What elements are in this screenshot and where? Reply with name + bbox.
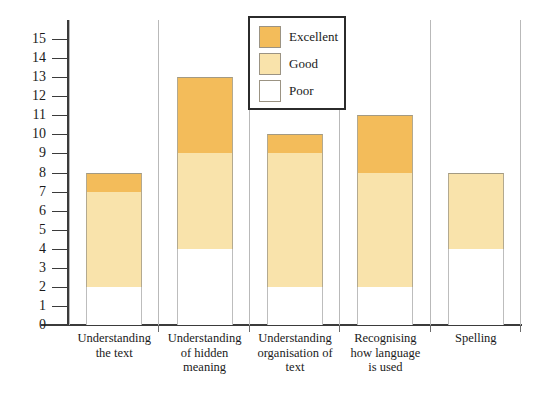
bar-segment-good[interactable] — [448, 173, 504, 249]
legend-swatch-poor — [259, 80, 281, 102]
y-axis-tick-label: 9 — [0, 146, 46, 160]
y-axis-tick — [52, 211, 67, 212]
y-axis-tick — [52, 306, 67, 307]
bar-stack[interactable] — [177, 77, 233, 325]
bar-segment-poor[interactable] — [448, 249, 504, 325]
y-axis-tick — [52, 115, 67, 116]
y-axis-tick-label: 6 — [0, 204, 46, 218]
x-axis-category-label-line: how language — [340, 346, 430, 361]
y-axis-tick-label: 1 — [0, 299, 46, 313]
y-axis-tick — [52, 287, 67, 288]
bar-stack[interactable] — [267, 134, 323, 325]
x-axis-category-label: Spelling — [431, 331, 521, 346]
x-axis-category-label-line: organisation of — [250, 346, 340, 361]
y-axis-tick-label: 10 — [0, 127, 46, 141]
bar-segment-good[interactable] — [86, 192, 142, 287]
bar-segment-poor[interactable] — [177, 249, 233, 325]
x-axis-category-label-line: Understanding — [69, 331, 159, 346]
category-separator-line — [69, 20, 70, 325]
x-axis-category-label-line: Understanding — [250, 331, 340, 346]
bar-stack[interactable] — [448, 173, 504, 326]
bar-segment-poor[interactable] — [86, 287, 142, 325]
y-axis-tick-label: 12 — [0, 89, 46, 103]
y-axis-tick-label: 14 — [0, 51, 46, 65]
bar-segment-poor[interactable] — [357, 287, 413, 325]
legend-swatch-good — [259, 53, 281, 75]
x-axis-category-label-line: Spelling — [431, 331, 521, 346]
y-axis-tick-label: 0 — [0, 318, 46, 332]
y-axis-tick — [52, 77, 67, 78]
y-axis-tick-label: 5 — [0, 223, 46, 237]
bar-segment-excellent[interactable] — [177, 77, 233, 153]
category-separator-line — [158, 20, 159, 325]
y-axis-tick — [52, 268, 67, 269]
x-axis-category-label-line: text — [250, 360, 340, 375]
y-axis-tick — [52, 230, 67, 231]
bar-stack[interactable] — [357, 115, 413, 325]
bar-segment-good[interactable] — [357, 173, 413, 287]
legend-label: Poor — [289, 83, 314, 99]
y-axis-tick-label: 2 — [0, 280, 46, 294]
chart-legend: ExcellentGoodPoor — [248, 16, 346, 110]
y-axis-tick — [52, 153, 67, 154]
x-axis-category-label: Understandingthe text — [69, 331, 159, 360]
category-separator-line — [430, 20, 431, 325]
legend-label: Good — [289, 56, 318, 72]
y-axis-tick — [52, 96, 67, 97]
y-axis-tick-label: 8 — [0, 166, 46, 180]
x-axis-category-label-line: meaning — [159, 360, 249, 375]
legend-swatch-excellent — [259, 26, 281, 48]
bar-segment-poor[interactable] — [267, 287, 323, 325]
bar-segment-excellent[interactable] — [357, 115, 413, 172]
x-axis-category-label: Recognisinghow languageis used — [340, 331, 430, 375]
y-axis-tick — [52, 39, 67, 40]
y-axis-tick — [52, 58, 67, 59]
x-axis-category-label-line: of hidden — [159, 346, 249, 361]
y-axis-tick — [52, 173, 67, 174]
x-axis-category-label-line: is used — [340, 360, 430, 375]
y-axis-tick — [52, 192, 67, 193]
y-axis-tick-label: 4 — [0, 242, 46, 256]
x-axis-category-label: Understandingof hiddenmeaning — [159, 331, 249, 375]
x-axis-category-label: Understandingorganisation oftext — [250, 331, 340, 375]
bar-segment-excellent[interactable] — [267, 134, 323, 153]
bar-stack[interactable] — [86, 173, 142, 326]
y-axis-tick — [52, 325, 67, 326]
y-axis-tick-label: 15 — [0, 32, 46, 46]
y-axis-tick-label: 3 — [0, 261, 46, 275]
y-axis-tick-label: 7 — [0, 185, 46, 199]
x-axis-category-label-line: Recognising — [340, 331, 430, 346]
legend-label: Excellent — [289, 29, 338, 45]
bar-segment-excellent[interactable] — [86, 173, 142, 192]
y-axis-tick — [52, 134, 67, 135]
bar-segment-good[interactable] — [177, 153, 233, 248]
chart-figure: 0123456789101112131415 Understandingthe … — [0, 0, 551, 399]
x-axis-category-label-line: the text — [69, 346, 159, 361]
category-separator-line — [520, 20, 521, 325]
y-axis-tick-label: 11 — [0, 108, 46, 122]
x-axis-category-label-line: Understanding — [159, 331, 249, 346]
bar-segment-good[interactable] — [267, 153, 323, 286]
y-axis-tick-label: 13 — [0, 70, 46, 84]
y-axis-tick — [52, 249, 67, 250]
